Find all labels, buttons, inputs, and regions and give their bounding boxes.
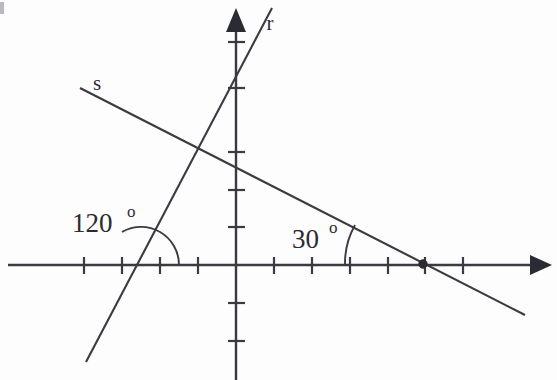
- coordinate-plane-svg: r s 120 o 30 o: [0, 0, 557, 380]
- line-r-label: r: [267, 11, 274, 35]
- angle-30-value: 30: [292, 224, 319, 254]
- y-axis-arrowhead-icon: [226, 8, 246, 32]
- scan-artifact-speck: [0, 2, 4, 14]
- angle-30-label: 30 o: [292, 218, 338, 254]
- line-s-label: s: [93, 71, 101, 95]
- angle-120-degree-icon: o: [127, 202, 136, 221]
- geometry-figure-canvas: r s 120 o 30 o: [0, 0, 557, 380]
- angle-120-value: 120: [72, 208, 113, 238]
- angle-120-label: 120 o: [72, 202, 136, 238]
- angle-30-degree-icon: o: [329, 218, 338, 237]
- x-axis-group: [8, 255, 552, 275]
- angle-arc-120: [122, 227, 179, 265]
- line-r: [86, 8, 272, 362]
- line-s: [80, 88, 525, 315]
- x-axis-arrowhead-icon: [530, 255, 552, 275]
- intersection-point-marker: [419, 260, 427, 268]
